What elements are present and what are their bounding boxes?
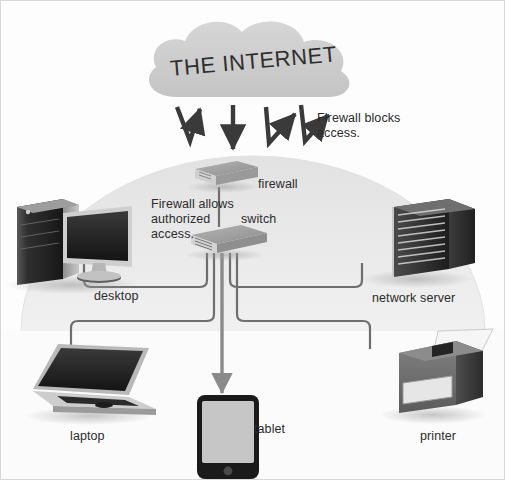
desktop-icon bbox=[5, 199, 137, 294]
tablet-icon bbox=[197, 395, 259, 479]
label-desktop: desktop bbox=[94, 289, 138, 304]
label-laptop: laptop bbox=[70, 429, 105, 444]
network-diagram-canvas: THE INTERNET Firewall blocks access. Fir… bbox=[0, 0, 505, 480]
annotation-firewall-allows: Firewall allows authorized access. bbox=[151, 197, 234, 242]
bidirectional-arrow bbox=[177, 107, 200, 141]
label-printer: printer bbox=[420, 429, 456, 444]
label-network-server: network server bbox=[372, 291, 455, 306]
traffic-arrows bbox=[177, 105, 328, 149]
label-switch: switch bbox=[241, 212, 276, 227]
annotation-firewall-blocks: Firewall blocks access. bbox=[317, 111, 400, 141]
label-firewall: firewall bbox=[258, 177, 298, 192]
blocked-arrow-1 bbox=[266, 107, 295, 143]
label-tablet: tablet bbox=[254, 422, 285, 437]
